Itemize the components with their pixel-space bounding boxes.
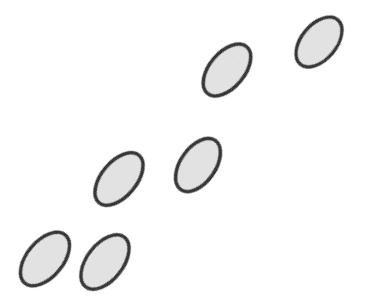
ellipse-diagram: Diagonal arrangement of six tilted ellip… [0,0,366,308]
figure-canvas: Diagonal arrangement of six tilted ellip… [0,0,366,308]
